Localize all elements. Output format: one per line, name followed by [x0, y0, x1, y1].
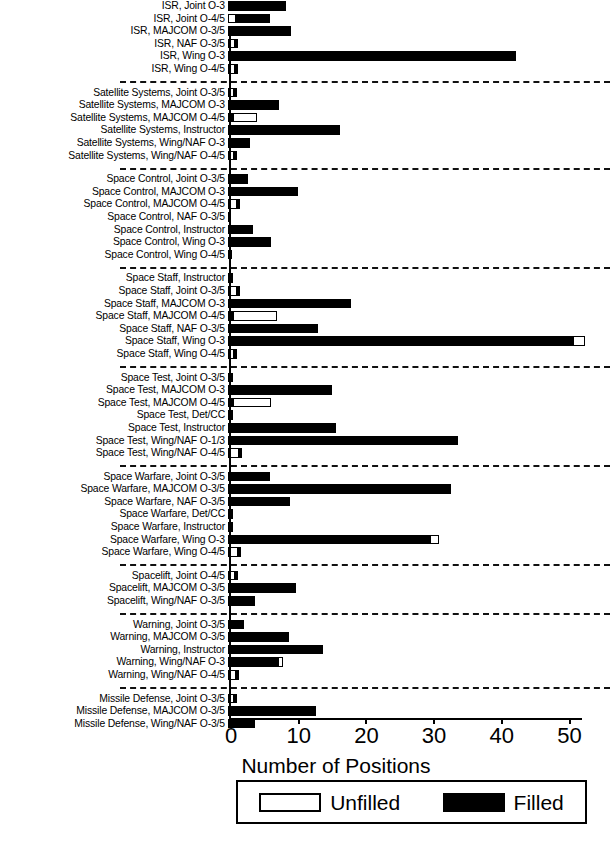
bar-row: Space Control, MAJCOM O-4/5	[0, 198, 610, 211]
bar-row-label: Space Staff, MAJCOM O-4/5	[0, 311, 228, 321]
stacked-bar	[228, 436, 458, 446]
bar-segment-filled	[228, 706, 316, 716]
bar-row: Space Test, MAJCOM O-4/5	[0, 397, 610, 410]
bar-row: Space Test, Det/CC	[0, 409, 610, 422]
stacked-bar	[228, 187, 298, 197]
bar-segment-filled	[228, 174, 248, 184]
bar-track	[228, 619, 610, 632]
bar-segment-filled	[228, 436, 458, 446]
bar-row: Space Control, Wing O-3	[0, 236, 610, 249]
bar-row-label: Space Control, MAJCOM O-3	[0, 187, 228, 197]
bar-track	[228, 224, 610, 237]
stacked-bar	[228, 385, 332, 395]
bar-row-label: Space Control, Instructor	[0, 225, 228, 235]
stacked-bar	[228, 174, 248, 184]
stacked-bar	[228, 51, 516, 61]
bar-segment-filled	[235, 571, 238, 581]
bar-row: ISR, Joint O-4/5	[0, 13, 610, 26]
bar-row: Spacelift, Joint O-4/5	[0, 570, 610, 583]
bar-segment-filled	[235, 39, 238, 49]
bar-segment-filled	[237, 286, 240, 296]
bar-track	[228, 656, 610, 669]
bar-row-label: ISR, Joint O-4/5	[0, 14, 228, 24]
bar-row: Spacelift, MAJCOM O-3/5	[0, 582, 610, 595]
bar-track	[228, 397, 610, 410]
bar-segment-filled	[228, 535, 430, 545]
stacked-bar	[228, 100, 279, 110]
bar-segment-unfilled	[573, 336, 585, 346]
legend-swatch-unfilled	[259, 793, 321, 812]
bar-segment-filled	[228, 423, 336, 433]
stacked-bar	[228, 1, 286, 11]
x-tick-label: 30	[422, 725, 446, 747]
x-axis-line	[230, 718, 582, 720]
stacked-bar	[228, 225, 253, 235]
bar-row-label: Space Control, MAJCOM O-4/5	[0, 199, 228, 209]
dashed-divider	[120, 366, 610, 368]
bar-row: ISR, NAF O-3/5	[0, 38, 610, 51]
bar-track	[228, 409, 610, 422]
stacked-bar	[228, 423, 336, 433]
bar-row: Space Control, Wing O-4/5	[0, 249, 610, 262]
bar-row-label: Space Control, Wing O-4/5	[0, 250, 228, 260]
bar-segment-filled	[228, 187, 298, 197]
stacked-bar	[228, 706, 316, 716]
bar-row-label: Warning, Wing/NAF O-3	[0, 657, 228, 667]
dashed-divider	[120, 168, 610, 170]
bar-row: Warning, MAJCOM O-3/5	[0, 631, 610, 644]
bar-track	[228, 150, 610, 163]
bar-row-label: Space Warfare, MAJCOM O-3/5	[0, 484, 228, 494]
bar-row-label: Satellite Systems, Joint O-3/5	[0, 88, 228, 98]
bar-row: Spacelift, Wing/NAF O-3/5	[0, 595, 610, 608]
bar-track	[228, 570, 610, 583]
bar-row: ISR, Wing O-4/5	[0, 63, 610, 76]
bar-track	[228, 198, 610, 211]
bar-row-label: Space Warfare, Wing O-3	[0, 535, 228, 545]
bar-row: Space Staff, MAJCOM O-4/5	[0, 310, 610, 323]
bar-row: Space Test, Joint O-3/5	[0, 371, 610, 384]
bar-row: Space Control, NAF O-3/5	[0, 211, 610, 224]
bar-track	[228, 631, 610, 644]
group-separator-space-test	[0, 360, 610, 371]
stacked-bar	[228, 535, 439, 545]
bar-track	[228, 297, 610, 310]
bar-row: Space Test, MAJCOM O-3	[0, 384, 610, 397]
bar-segment-filled	[234, 349, 237, 359]
bar-row-label: ISR, Wing O-3	[0, 51, 228, 61]
bar-track	[228, 0, 610, 13]
bar-row: Satellite Systems, Instructor	[0, 124, 610, 137]
bar-row-label: Spacelift, Wing/NAF O-3/5	[0, 596, 228, 606]
chart-legend: Unfilled Filled	[236, 780, 587, 824]
bar-row-label: Space Control, NAF O-3/5	[0, 212, 228, 222]
group-separator-warning	[0, 608, 610, 619]
bar-row: Space Test, Instructor	[0, 422, 610, 435]
legend-label-unfilled: Unfilled	[330, 792, 400, 813]
plot-area: ISR, Joint O-3ISR, Joint O-4/5ISR, MAJCO…	[0, 0, 610, 730]
bar-segment-unfilled	[233, 311, 277, 321]
bar-row: Space Warfare, Wing O-3	[0, 534, 610, 547]
bar-row: Space Warfare, Instructor	[0, 521, 610, 534]
bar-row-label: Space Staff, Instructor	[0, 273, 228, 283]
bar-track	[228, 371, 610, 384]
bar-row-label: Warning, Joint O-3/5	[0, 620, 228, 630]
bar-row-label: Space Warfare, Instructor	[0, 522, 228, 532]
bar-row: Space Staff, Wing O-4/5	[0, 348, 610, 361]
stacked-bar	[228, 14, 270, 24]
bar-row: ISR, Wing O-3	[0, 50, 610, 63]
bar-track	[228, 335, 610, 348]
group-separator-missile-defense	[0, 682, 610, 693]
bar-row-label: Satellite Systems, MAJCOM O-4/5	[0, 113, 228, 123]
bar-row-label: Satellite Systems, Wing/NAF O-3	[0, 138, 228, 148]
bar-row-label: Warning, MAJCOM O-3/5	[0, 632, 228, 642]
bar-track	[228, 705, 610, 718]
bar-segment-filled	[228, 472, 270, 482]
stacked-bar	[228, 583, 296, 593]
bar-row-label: Space Control, Joint O-3/5	[0, 174, 228, 184]
bar-track	[228, 348, 610, 361]
dashed-divider	[120, 687, 610, 689]
stacked-bar	[228, 336, 585, 346]
bar-row-label: Warning, Wing/NAF O-4/5	[0, 670, 228, 680]
bar-track	[228, 13, 610, 26]
bar-row-label: Space Control, Wing O-3	[0, 237, 228, 247]
bar-segment-filled	[228, 225, 253, 235]
